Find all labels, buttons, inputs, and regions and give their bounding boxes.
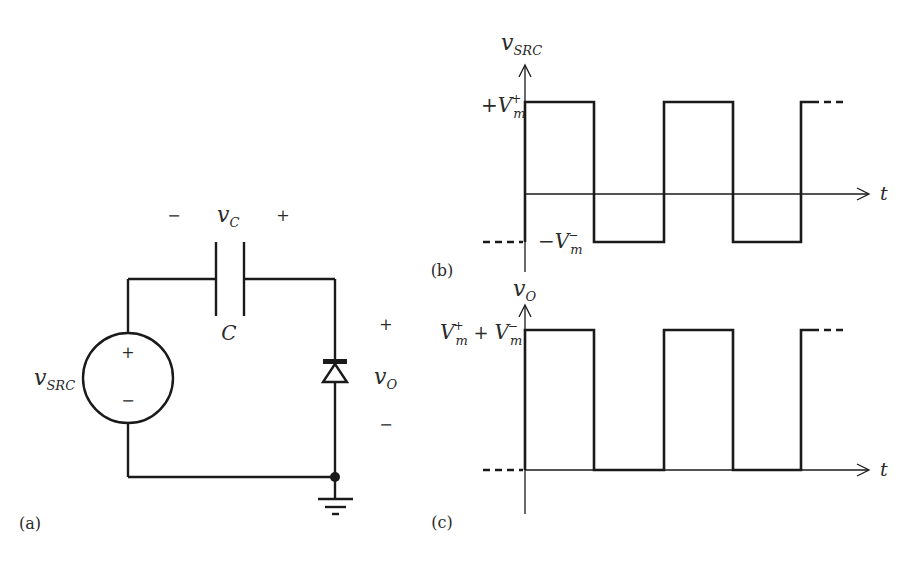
source-label: vSRC: [34, 365, 75, 393]
source-square-wave: [525, 102, 812, 242]
clamper-circuit-figure: + − vSRC − vC + C + vO − (a): [0, 0, 922, 566]
capacitor-plus-sign: +: [276, 206, 289, 225]
source-plus-sign: +: [121, 343, 134, 362]
source-waveform-panel: vSRC t +V+m −V−m (b): [431, 30, 888, 280]
capacitor-minus-sign: −: [167, 206, 180, 225]
panel-label-c: (c): [431, 513, 452, 532]
diode-icon: [323, 359, 347, 382]
low-level-label-b: −V−m: [538, 228, 583, 257]
panel-label-b: (b): [431, 261, 454, 280]
capacitor-voltage-label: vC: [217, 202, 239, 230]
output-plus-sign: +: [379, 315, 392, 334]
t-axis-label-b: t: [880, 182, 888, 204]
source-minus-sign: −: [121, 391, 134, 410]
y-axis-label-c: vO: [513, 276, 536, 304]
ground-icon: [318, 477, 353, 514]
output-waveform-panel: vO t V+m + V−m (c): [431, 276, 888, 532]
y-axis-label-b: vSRC: [501, 30, 542, 58]
output-square-wave: [525, 330, 812, 470]
output-minus-sign: −: [379, 415, 392, 434]
high-level-label-c: V+m + V−m: [440, 319, 522, 348]
capacitor-label: C: [221, 321, 236, 345]
panel-label-a: (a): [19, 514, 41, 533]
circuit-panel: + − vSRC − vC + C + vO − (a): [19, 202, 397, 533]
output-voltage-label: vO: [374, 364, 397, 392]
high-level-label-b: +V+m: [481, 92, 526, 121]
t-axis-label-c: t: [880, 458, 888, 480]
